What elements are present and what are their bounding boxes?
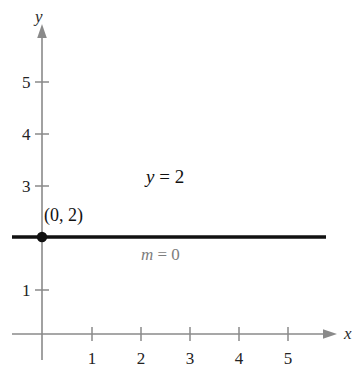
- slope-value: = 0: [153, 245, 180, 264]
- point-0-2: [37, 232, 47, 242]
- y-axis-arrowhead: [37, 24, 47, 38]
- point-label-0-2: (0, 2): [44, 206, 83, 224]
- y-tick-label-3: 3: [22, 178, 31, 195]
- slope-annotation: m = 0: [141, 246, 180, 263]
- slope-variable: m: [141, 245, 153, 264]
- y-tick-label-4: 4: [22, 126, 31, 143]
- equation-value: = 2: [154, 166, 184, 187]
- x-tick-label-4: 4: [235, 350, 244, 367]
- coordinate-plane-svg: [0, 0, 364, 380]
- y-tick-label-1: 1: [22, 282, 31, 299]
- x-tick-label-3: 3: [186, 350, 195, 367]
- x-axis-label: x: [344, 325, 352, 342]
- equation-annotation: y = 2: [146, 167, 184, 186]
- x-tick-label-5: 5: [284, 350, 293, 367]
- x-axis-arrowhead: [323, 329, 337, 339]
- x-tick-label-2: 2: [137, 350, 146, 367]
- graph-figure: y x 5 4 3 1 1 2 3 4 5 (0, 2) y = 2 m = 0: [0, 0, 364, 380]
- x-tick-label-1: 1: [88, 350, 97, 367]
- y-axis-label: y: [35, 8, 43, 25]
- y-tick-label-5: 5: [22, 74, 31, 91]
